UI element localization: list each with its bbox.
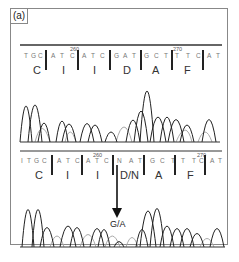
nucleotide: A <box>86 157 91 164</box>
nucleotide: T <box>181 157 185 164</box>
nucleotide: T <box>192 157 196 164</box>
amino-acid: D <box>123 64 131 76</box>
amino-acid: A <box>152 64 160 76</box>
amino-acid: I <box>93 64 96 76</box>
nucleotide: T <box>132 52 136 59</box>
top-amino-acid-row: C I I D A F <box>33 64 191 76</box>
top-chromatogram-trace <box>20 91 220 142</box>
nucleotide: T <box>175 52 179 59</box>
chromatogram-figure: 260 270 T G C A T C A T C G A T G C T T … <box>0 0 239 262</box>
nucleotide: T <box>24 52 28 59</box>
mutation-annotation: G/A <box>110 219 126 229</box>
nucleotide: A <box>207 52 212 59</box>
nucleotide: T <box>218 157 222 164</box>
amino-acid: A <box>155 169 163 181</box>
nucleotide: G <box>150 157 155 164</box>
nucleotide: C <box>199 157 204 164</box>
nucleotide: C <box>154 52 159 59</box>
nucleotide: C <box>70 52 75 59</box>
nucleotide: C <box>160 157 165 164</box>
nucleotide: C <box>75 157 80 164</box>
nucleotide: A <box>51 52 56 59</box>
nucleotide: T <box>66 157 70 164</box>
top-nucleotide-row: T G C A T C A T C G A T G C T T T C A T <box>24 52 220 59</box>
amino-acid: I <box>96 169 99 181</box>
nucleotide: C <box>196 52 201 59</box>
nucleotide: T <box>91 52 95 59</box>
nucleotide: A <box>57 157 62 164</box>
nucleotide: T <box>27 157 31 164</box>
top-panel: 260 270 T G C A T C A T C G A T G C T T … <box>20 45 222 142</box>
nucleotide: C <box>38 52 43 59</box>
nucleotide: G <box>114 52 119 59</box>
nucleotide: A <box>129 157 134 164</box>
nucleotide: T <box>164 52 168 59</box>
nucleotide: T <box>216 52 220 59</box>
nucleotide: C <box>100 52 105 59</box>
nucleotide: A <box>210 157 215 164</box>
amino-acid: I <box>62 64 65 76</box>
nucleotide: T <box>138 157 142 164</box>
bottom-amino-acid-row: C I I D/N A F <box>35 169 194 181</box>
nucleotide: G <box>31 52 36 59</box>
nucleotide: N <box>117 157 122 164</box>
amino-acid: D/N <box>120 169 139 181</box>
nucleotide: C <box>42 157 47 164</box>
amino-acid: C <box>33 64 41 76</box>
amino-acid: F <box>187 169 194 181</box>
nucleotide: T <box>95 157 99 164</box>
nucleotide: A <box>82 52 87 59</box>
nucleotide: I <box>21 157 23 164</box>
nucleotide: G <box>34 157 39 164</box>
bottom-panel: 260 270 I T G C A T C A T C N A T G C T … <box>20 151 225 247</box>
amino-acid: I <box>66 169 69 181</box>
nucleotide: T <box>186 52 190 59</box>
nucleotide: T <box>60 52 64 59</box>
amino-acid: C <box>35 169 43 181</box>
nucleotide: G <box>144 52 149 59</box>
nucleotide: A <box>123 52 128 59</box>
amino-acid: F <box>184 64 191 76</box>
nucleotide: C <box>104 157 109 164</box>
